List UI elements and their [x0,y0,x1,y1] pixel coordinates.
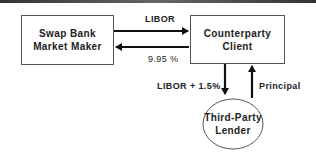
libor-plus-label: LIBOR + 1.5% [157,81,221,91]
swap-bank-line1: Swap Bank [39,28,96,39]
lender-node: Third-PartyLender [203,99,263,149]
fixed-rate-label: 9.95 % [148,54,178,64]
swap-bank-node: Swap BankMarket Maker [21,15,114,65]
counterparty-node: CounterpartyClient [190,15,285,64]
lender-line1: Third-Party [204,112,262,123]
counterparty-line1: Counterparty [204,28,272,39]
swap-bank-line2: Market Maker [33,41,102,52]
swap-diagram: Swap BankMarket Maker CounterpartyClient… [0,0,316,153]
lender-line2: Lender [215,125,251,136]
principal-label: Principal [259,81,301,91]
counterparty-line2: Client [222,41,252,52]
libor-label: LIBOR [145,14,175,24]
